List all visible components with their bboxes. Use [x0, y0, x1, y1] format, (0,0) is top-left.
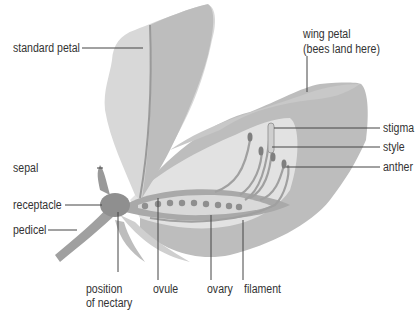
- label-filament: filament: [244, 282, 281, 297]
- label-stigma: stigma: [383, 121, 414, 136]
- receptacle-shape: [100, 193, 130, 217]
- label-pedicel: pedicel: [13, 223, 46, 238]
- label-style: style: [383, 140, 405, 155]
- label-anther: anther: [383, 160, 413, 175]
- label-nectary-2: of nectary: [86, 296, 132, 311]
- label-receptacle: receptacle: [13, 198, 62, 213]
- label-standard-petal: standard petal: [13, 41, 80, 56]
- label-ovule: ovule: [153, 282, 178, 297]
- label-nectary: position: [86, 282, 122, 297]
- sepal-shape: [98, 165, 110, 195]
- label-sepal: sepal: [13, 161, 38, 176]
- label-wing-petal-note: (bees land here): [303, 42, 380, 57]
- label-wing-petal: wing petal: [303, 27, 351, 42]
- label-ovary: ovary: [207, 282, 233, 297]
